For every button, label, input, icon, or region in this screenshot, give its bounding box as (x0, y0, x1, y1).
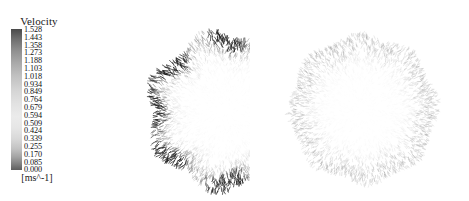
colorbar-gradient-wrap (11, 29, 22, 170)
velocity-panel-right (278, 12, 448, 198)
vector-glyph-group (285, 31, 440, 187)
colorbar-legend: Velocity 1.528 1.443 1.358 1.273 1.188 1… (0, 0, 72, 201)
velocity-panel-left (70, 8, 250, 198)
colorbar-gradient (11, 29, 22, 170)
colorbar-units-label: [ms^-1] (5, 172, 69, 183)
vector-glyph-group (147, 29, 250, 195)
colorbar-tick-labels: 1.528 1.443 1.358 1.273 1.188 1.103 1.01… (24, 26, 68, 174)
velocity-field-left-svg (70, 8, 250, 198)
velocity-field-right-svg (278, 12, 448, 198)
velocity-field-figure: Velocity 1.528 1.443 1.358 1.273 1.188 1… (0, 0, 469, 201)
